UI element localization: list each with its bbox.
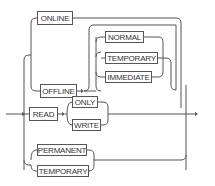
keyword-online: ONLINE: [37, 11, 73, 25]
railroad-lines: [0, 0, 215, 186]
keyword-temporary: TEMPORARY: [37, 165, 89, 177]
keyword-normal: NORMAL: [105, 31, 144, 43]
keyword-write: WRITE: [72, 119, 101, 131]
keyword-read: READ: [29, 107, 58, 121]
exit-arrow-icon: [195, 112, 198, 116]
keyword-immediate: IMMEDIATE: [105, 71, 152, 83]
keyword-temporary-offline: TEMPORARY: [105, 52, 158, 64]
keyword-permanent: PERMANENT: [37, 144, 87, 156]
keyword-only: ONLY: [72, 96, 98, 108]
